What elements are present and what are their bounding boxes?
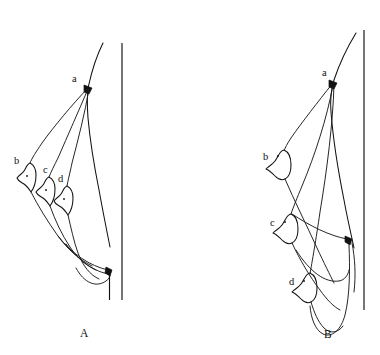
panel-a-lower-arc-inner	[76, 268, 110, 284]
panel-b-group: a b c d B	[263, 30, 364, 340]
panel-a-nodule-d	[54, 186, 73, 215]
panel-a-lower-arc-outer	[58, 236, 108, 270]
panel-b-nodule-b-dot	[277, 155, 279, 157]
panel-b-label-b: b	[263, 151, 268, 162]
panel-b-base-tail	[352, 243, 355, 292]
panel-a-nodule-d-dot	[63, 198, 65, 200]
panel-b-nodule-c-dot	[284, 221, 286, 223]
line-drawing-canvas: a b c d A	[0, 0, 380, 355]
panel-b-nodule-d	[292, 273, 317, 303]
panel-b-main-stem	[331, 33, 356, 248]
panel-b-label-d: d	[289, 276, 295, 287]
panel-a-base-node	[105, 267, 112, 276]
panel-b-stalk-c	[292, 243, 340, 310]
panel-b-branch-d	[310, 85, 334, 274]
panel-b-branch-c	[291, 85, 333, 214]
figure-plate: a b c d A	[0, 0, 380, 355]
panel-b-nodule-c	[273, 214, 298, 244]
panel-a-main-stem	[87, 43, 110, 247]
panel-a-nodule-c-dot	[45, 189, 47, 191]
panel-b-nodule-b	[266, 150, 291, 180]
panel-b-branch-b	[284, 84, 332, 151]
panel-b-base-node	[345, 236, 352, 245]
panel-a-stalk-c	[50, 206, 96, 270]
panel-a-nodule-b	[17, 163, 36, 192]
panel-b-apex-node	[329, 80, 337, 89]
panel-a-group: a b c d A	[14, 43, 122, 339]
panel-a-label-c: c	[43, 164, 48, 175]
panel-a-label-d: d	[58, 173, 64, 184]
panel-b-label-a: a	[322, 67, 327, 78]
panel-b-caption: B	[324, 328, 332, 340]
panel-a-label-b: b	[14, 155, 19, 166]
panel-a-branch-c	[49, 89, 88, 177]
panel-a-label-a: a	[72, 73, 77, 84]
panel-b-label-c: c	[270, 217, 275, 228]
panel-a-nodule-c	[36, 177, 55, 206]
panel-a-branch-d	[67, 89, 89, 186]
panel-a-branch-b	[30, 89, 87, 163]
panel-a-caption: A	[80, 327, 89, 339]
panel-b-nodule-d-dot	[303, 280, 305, 282]
panel-a-nodule-b-dot	[26, 175, 28, 177]
